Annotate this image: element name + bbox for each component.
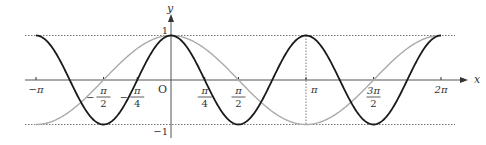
y-axis-arrow-icon <box>168 14 174 22</box>
x-tick-denominator: 2 <box>235 98 241 109</box>
x-axis-label: x <box>474 73 481 86</box>
x-tick-denominator: 2 <box>370 98 376 109</box>
x-tick-denominator: 4 <box>134 98 140 109</box>
x-tick-numerator: π <box>99 85 107 96</box>
y-tick-label: −1 <box>153 126 168 137</box>
origin-label: O <box>158 83 167 96</box>
x-tick-label: π <box>310 84 318 95</box>
x-tick-denominator: 2 <box>100 98 106 109</box>
x-axis-arrow-icon <box>460 77 468 83</box>
x-tick-numerator: π <box>234 85 242 96</box>
x-tick-label: 2π <box>434 84 448 95</box>
x-tick-numerator: 3π <box>367 85 380 96</box>
x-tick-denominator: 4 <box>202 98 208 109</box>
x-tick-label: −π <box>29 84 44 95</box>
y-axis-label: y <box>166 2 174 15</box>
cosine-chart: x y O −π−π2−π4π4π2π3π22π1−1 <box>0 0 486 145</box>
y-tick-label: 1 <box>162 25 168 36</box>
